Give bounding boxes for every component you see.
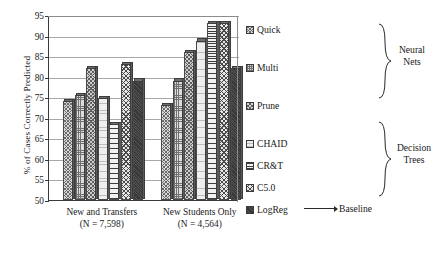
y-tick-label: 85	[19, 52, 44, 62]
legend-item-chaid[interactable]: CHAID	[246, 138, 287, 149]
bar-c5-0	[219, 23, 229, 200]
baseline-arrow: Baseline	[304, 203, 372, 214]
bar-group	[161, 15, 241, 200]
plot-area: 50556065707580859095	[48, 16, 238, 201]
bar-cr-t	[109, 124, 119, 200]
arrow-head-icon	[334, 206, 338, 212]
legend: QuickMultiPruneCHAIDCR&TC5.0LogReg Neura…	[246, 18, 424, 248]
legend-item-logreg[interactable]: LogReg	[246, 204, 288, 215]
plot-right-border	[237, 16, 238, 202]
bar-multi	[173, 81, 183, 200]
bar-quick	[161, 105, 171, 200]
legend-swatch-icon	[246, 162, 254, 170]
legend-label: CR&T	[257, 160, 283, 171]
legend-label: Quick	[257, 24, 280, 35]
category-sample-size: (N = 4,564)	[145, 219, 255, 231]
y-tick-mark	[45, 201, 49, 202]
bar-prune	[86, 68, 96, 200]
legend-label: C5.0	[257, 182, 275, 193]
legend-group-neural-nets: Neural Nets	[390, 44, 434, 67]
bar-prune	[184, 52, 194, 200]
y-tick-label: 75	[19, 93, 44, 103]
legend-label: Multi	[257, 62, 278, 73]
y-tick-label: 65	[19, 134, 44, 144]
legend-item-multi[interactable]: Multi	[246, 62, 278, 73]
bar-side-face	[142, 78, 145, 199]
bar-cr-t	[207, 23, 217, 200]
bar-series-container	[49, 15, 239, 200]
legend-swatch-icon	[246, 26, 254, 34]
y-tick-label: 50	[19, 196, 44, 206]
legend-swatch-icon	[246, 206, 254, 214]
legend-item-prune[interactable]: Prune	[246, 100, 279, 111]
legend-item-c5-0[interactable]: C5.0	[246, 182, 275, 193]
legend-swatch-icon	[246, 184, 254, 192]
legend-swatch-icon	[246, 140, 254, 148]
category-name: New and Transfers	[66, 207, 137, 217]
legend-label: LogReg	[257, 204, 288, 215]
category-sample-size: (N = 7,598)	[47, 219, 157, 231]
y-tick-label: 90	[19, 32, 44, 42]
bar-quick	[63, 101, 73, 200]
bar-c5-0	[121, 64, 131, 200]
y-tick-label: 80	[19, 73, 44, 83]
legend-item-cr-t[interactable]: CR&T	[246, 160, 283, 171]
legend-group-decision-trees: Decision Trees	[388, 142, 436, 165]
legend-item-quick[interactable]: Quick	[246, 24, 280, 35]
bar-chaid	[196, 41, 206, 201]
bar-logreg	[133, 81, 143, 200]
legend-label: Prune	[257, 100, 279, 111]
plot-top-border	[48, 16, 238, 17]
y-tick-label: 55	[19, 175, 44, 185]
legend-swatch-icon	[246, 102, 254, 110]
arrow-line	[304, 208, 334, 209]
y-tick-label: 95	[19, 11, 44, 21]
legend-swatch-icon	[246, 64, 254, 72]
y-tick-label: 70	[19, 114, 44, 124]
baseline-label: Baseline	[339, 203, 372, 214]
bar-logreg	[231, 68, 241, 200]
y-tick-label: 60	[19, 155, 44, 165]
category-name: New Students Only	[163, 207, 236, 217]
bar-multi	[75, 95, 85, 200]
x-axis-category-label: New Students Only(N = 4,564)	[145, 207, 255, 230]
bar-chaid	[98, 98, 108, 200]
x-axis-category-label: New and Transfers(N = 7,598)	[47, 207, 157, 230]
bar-group	[63, 15, 143, 200]
legend-label: CHAID	[257, 138, 287, 149]
bar-side-face	[240, 66, 243, 199]
